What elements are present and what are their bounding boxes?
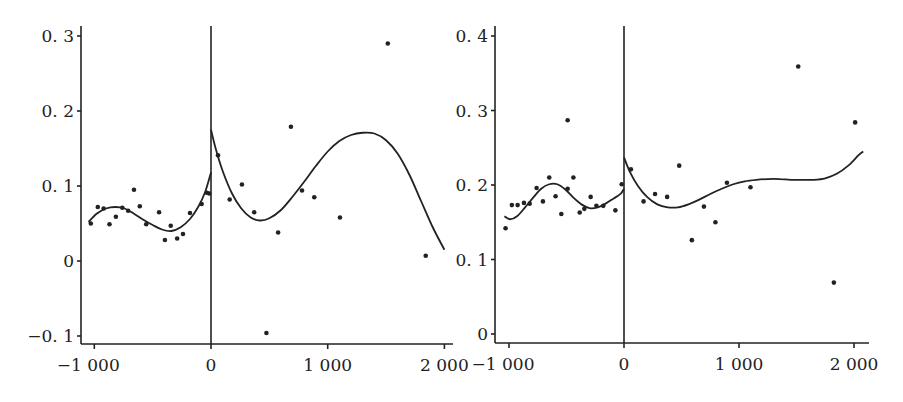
data-point: [665, 195, 670, 200]
data-point: [96, 205, 101, 210]
x-tick-label: 1 000: [715, 354, 764, 374]
y-tick-label: 0. 3: [42, 26, 74, 46]
data-point: [240, 182, 245, 187]
data-point: [289, 124, 294, 129]
data-point: [163, 238, 168, 243]
x-tick-label: 2 000: [420, 355, 469, 375]
data-point: [702, 204, 707, 209]
data-point: [522, 201, 527, 206]
data-point: [107, 222, 112, 227]
data-point: [276, 230, 281, 235]
data-point: [168, 223, 173, 228]
y-tick-label: 0: [63, 251, 74, 271]
data-point: [338, 215, 343, 220]
data-point: [175, 236, 180, 241]
data-point: [188, 211, 193, 216]
data-point: [588, 195, 593, 200]
data-point: [503, 226, 508, 231]
y-tick-label: 0. 4: [456, 26, 488, 46]
data-point: [619, 182, 624, 187]
data-point: [547, 175, 552, 180]
data-point: [157, 210, 162, 215]
data-point: [312, 195, 317, 200]
y-tick-label: 0: [477, 324, 488, 344]
data-point: [132, 187, 137, 192]
data-point: [423, 253, 428, 258]
x-tick-label: 0: [619, 354, 630, 374]
y-tick-label: 0. 3: [456, 101, 488, 121]
fit-right-curve: [624, 151, 863, 207]
x-tick-label: 2 000: [830, 354, 879, 374]
data-point: [832, 280, 837, 285]
data-point: [181, 232, 186, 237]
data-point: [613, 208, 618, 213]
fit-left-curve: [88, 173, 211, 232]
y-tick-label: −0. 1: [27, 326, 74, 346]
left-chart: −0. 100. 10. 20. 3−1 00001 0002 000: [27, 26, 468, 375]
data-point: [796, 64, 801, 69]
data-point: [510, 203, 515, 208]
x-tick-label: −1 000: [472, 354, 535, 374]
data-point: [227, 197, 232, 202]
x-tick-label: 1 000: [303, 355, 352, 375]
data-point: [677, 163, 682, 168]
data-point: [541, 199, 546, 204]
data-point: [725, 180, 730, 185]
data-point: [300, 188, 305, 193]
y-tick-label: 0. 1: [456, 250, 488, 270]
data-point: [713, 220, 718, 225]
data-point: [853, 120, 858, 125]
fit-right-curve: [211, 130, 444, 250]
data-point: [553, 194, 558, 199]
x-tick-label: −1 000: [57, 355, 120, 375]
y-tick-label: 0. 1: [42, 176, 74, 196]
data-point: [138, 204, 143, 209]
data-point: [653, 192, 658, 197]
right-chart: 00. 10. 20. 30. 4−1 00001 0002 000: [456, 26, 879, 374]
data-point: [207, 191, 212, 196]
data-point: [515, 203, 520, 208]
y-tick-label: 0. 2: [42, 101, 74, 121]
data-point: [565, 118, 570, 123]
data-point: [264, 331, 269, 336]
data-point: [386, 41, 391, 46]
data-point: [559, 212, 564, 217]
data-point: [571, 175, 576, 180]
x-tick-label: 0: [206, 355, 217, 375]
data-point: [114, 214, 119, 219]
data-point: [641, 199, 646, 204]
data-point: [534, 186, 539, 191]
data-point: [577, 210, 582, 215]
figure: −0. 100. 10. 20. 3−1 00001 0002 000 00. …: [0, 0, 903, 402]
y-tick-label: 0. 2: [456, 175, 488, 195]
data-point: [748, 185, 753, 190]
data-point: [252, 210, 257, 215]
data-point: [690, 238, 695, 243]
